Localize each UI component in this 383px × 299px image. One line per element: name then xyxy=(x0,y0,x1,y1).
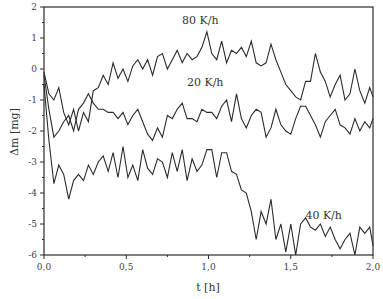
x-axis-title: t [h] xyxy=(196,281,220,294)
x-axis: 0,00,51,01,52,0 xyxy=(37,255,381,272)
y-tick-label: -3 xyxy=(28,157,37,167)
y-tick-label: -5 xyxy=(28,219,37,229)
x-tick-label: 1,0 xyxy=(201,262,216,272)
y-tick-label: -2 xyxy=(28,126,37,136)
y-tick-label: -6 xyxy=(28,250,37,260)
series-label: 40 K/h xyxy=(305,209,342,222)
series-label: 20 K/h xyxy=(187,76,224,89)
x-tick-label: 2,0 xyxy=(366,262,381,272)
series-line-40kh xyxy=(44,85,373,256)
y-tick-label: 1 xyxy=(31,33,37,43)
x-tick-label: 1,5 xyxy=(284,262,299,272)
y-axis-title: Δm [mg] xyxy=(8,108,21,156)
y-axis: 210-1-2-3-4-5-6 xyxy=(28,2,44,260)
series-label: 80 K/h xyxy=(182,14,219,27)
y-tick-label: -4 xyxy=(28,188,37,198)
x-tick-label: 0,5 xyxy=(119,262,134,272)
line-chart: 210-1-2-3-4-5-6 0,00,51,01,52,0 80 K/h20… xyxy=(0,0,383,299)
y-tick-label: 2 xyxy=(31,2,37,12)
x-tick-label: 0,0 xyxy=(37,262,52,272)
y-tick-label: 0 xyxy=(31,64,37,74)
y-tick-label: -1 xyxy=(28,95,37,105)
